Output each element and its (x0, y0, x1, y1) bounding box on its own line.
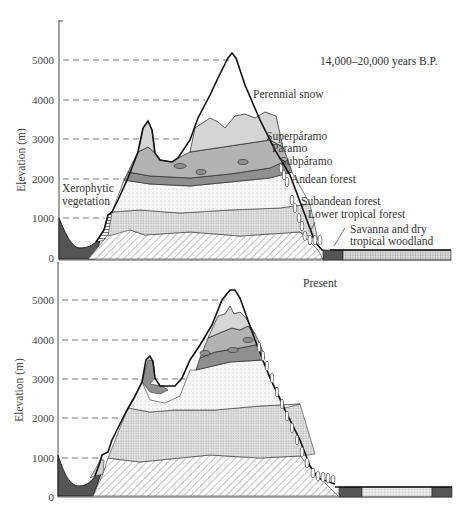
tick-2000-present: 2000 (32, 412, 55, 424)
zone-subandean-present (108, 404, 315, 462)
panel-present: 5000 4000 3000 2000 1000 0 Elevation (m) (13, 262, 452, 503)
strip-dark-present-left (339, 487, 362, 497)
vegetation-zonation-figure: 5000 4000 3000 2000 1000 0 Elevation (m)… (0, 0, 473, 528)
label-xerophytic-line2: vegetation (62, 195, 110, 208)
panel-title-past: 14,000–20,000 years B.P. (320, 55, 438, 68)
label-xerophytic-line1: Xerophytic (62, 182, 114, 195)
strip-dark-past (323, 250, 343, 260)
label-paramo: Páramo (272, 142, 307, 154)
tick-0-present: 0 (49, 491, 55, 503)
tick-0: 0 (49, 252, 55, 264)
zone-lower-tropical-forest-base (88, 230, 323, 259)
tick-4000: 4000 (32, 94, 55, 106)
svg-text:•: • (24, 179, 27, 188)
label-savanna-line2: tropical woodland (350, 235, 434, 248)
tick-3000-present: 3000 (32, 373, 55, 385)
panel-title-present: Present (303, 277, 338, 289)
zone-lower-tropical-forest-present (93, 455, 338, 496)
strip-dark-present-right (432, 487, 452, 497)
label-lower-tropical-forest: Lower tropical forest (308, 208, 406, 221)
tick-2000: 2000 (32, 173, 55, 185)
label-subparamo: Subpáramo (280, 155, 333, 168)
label-subandean-forest: Subandean forest (301, 195, 381, 207)
tick-1000: 1000 (32, 212, 55, 224)
strip-savanna-past (343, 250, 451, 260)
tick-1000-present: 1000 (32, 452, 55, 464)
y-axis-label-present: Elevation (m) (13, 358, 26, 422)
label-andean-forest: Andean forest (291, 173, 357, 185)
tick-4000-present: 4000 (32, 334, 55, 346)
panel-past: 5000 4000 3000 2000 1000 0 Elevation (m)… (15, 20, 451, 264)
tick-5000: 5000 (32, 54, 55, 66)
tick-3000: 3000 (32, 133, 55, 145)
label-perennial-snow: Perennial snow (253, 88, 324, 100)
strip-savanna-present (362, 487, 432, 497)
tick-5000-present: 5000 (32, 294, 55, 306)
